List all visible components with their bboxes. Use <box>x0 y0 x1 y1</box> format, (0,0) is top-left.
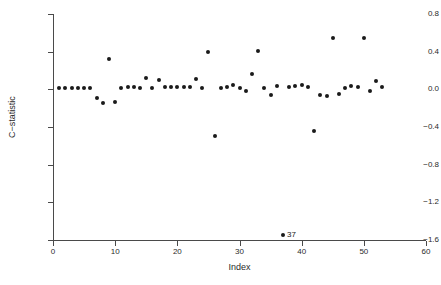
x-axis-tick-label: 40 <box>287 248 317 256</box>
data-point <box>244 89 248 93</box>
data-point <box>182 85 186 89</box>
x-axis-tick-label: 10 <box>100 248 130 256</box>
data-point-annotation: 37 <box>287 231 296 239</box>
x-axis-tick-label: 0 <box>38 248 68 256</box>
data-point <box>356 85 360 89</box>
x-axis-tick <box>53 241 54 246</box>
data-point <box>194 77 198 81</box>
data-point <box>380 85 384 89</box>
data-point <box>175 85 179 89</box>
data-point <box>262 86 266 90</box>
data-point <box>126 85 130 89</box>
data-point <box>337 92 341 96</box>
data-point <box>70 86 74 90</box>
data-point <box>213 134 217 138</box>
data-point <box>113 100 117 104</box>
data-point <box>206 50 210 54</box>
data-point <box>281 233 285 237</box>
data-point <box>63 86 67 90</box>
data-point <box>349 84 353 88</box>
x-axis-tick-label: 20 <box>162 248 192 256</box>
data-point <box>287 85 291 89</box>
y-axis-title: C−statistic <box>7 62 17 172</box>
data-point <box>331 36 335 40</box>
data-point <box>238 86 242 90</box>
data-point <box>57 86 61 90</box>
data-point <box>362 36 366 40</box>
data-point <box>150 86 154 90</box>
x-axis-tick-label: 60 <box>411 248 441 256</box>
data-point <box>374 79 378 83</box>
data-point <box>82 86 86 90</box>
data-point <box>119 86 123 90</box>
data-point <box>231 83 235 87</box>
data-point <box>188 85 192 89</box>
data-point <box>200 86 204 90</box>
data-point <box>107 57 111 61</box>
x-axis-title: Index <box>53 262 426 272</box>
data-point <box>132 85 136 89</box>
x-axis-tick <box>302 241 303 246</box>
data-point <box>101 101 105 105</box>
x-axis-tick-label: 50 <box>349 248 379 256</box>
data-point <box>219 86 223 90</box>
data-point <box>256 49 260 53</box>
data-point <box>157 78 161 82</box>
data-point <box>312 129 316 133</box>
data-point <box>269 93 273 97</box>
x-axis-tick <box>240 241 241 246</box>
data-point <box>343 86 347 90</box>
data-point <box>76 86 80 90</box>
data-point <box>144 76 148 80</box>
data-point <box>275 84 279 88</box>
data-point <box>325 94 329 98</box>
data-point <box>169 85 173 89</box>
data-point <box>300 83 304 87</box>
data-point <box>250 72 254 76</box>
x-axis-tick <box>177 241 178 246</box>
data-point <box>138 86 142 90</box>
plot-area: 37 <box>53 14 426 240</box>
data-point <box>368 89 372 93</box>
x-axis-tick <box>115 241 116 246</box>
data-point <box>306 85 310 89</box>
x-axis-tick <box>426 241 427 246</box>
data-point <box>88 86 92 90</box>
data-point <box>318 93 322 97</box>
data-point <box>163 85 167 89</box>
data-point <box>95 96 99 100</box>
x-axis-tick <box>364 241 365 246</box>
data-point <box>293 84 297 88</box>
data-point <box>225 85 229 89</box>
x-axis-tick-label: 30 <box>225 248 255 256</box>
